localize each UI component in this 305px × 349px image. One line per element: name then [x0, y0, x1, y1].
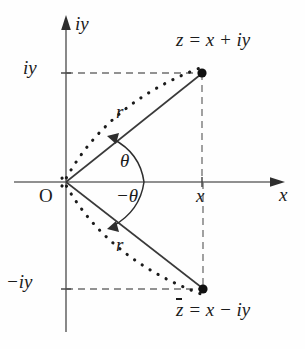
real-axis-label: x — [279, 185, 287, 204]
origin-label: O — [39, 186, 53, 205]
point-z — [197, 68, 206, 77]
radius-label-upper: r — [116, 102, 123, 121]
angle-label-negative: −θ — [116, 186, 138, 205]
complex-plane-figure: iy x O iy −iy x z = x + iy z = x − iy r … — [0, 0, 305, 349]
angle-arc-positive-arrowhead — [107, 133, 119, 144]
argand-diagram-canvas — [0, 0, 305, 349]
angle-label-positive: θ — [120, 151, 129, 170]
imaginary-axis-arrowhead — [61, 15, 71, 30]
tick-label-imag-negative: −iy — [6, 272, 33, 291]
imaginary-axis-label: iy — [75, 14, 89, 33]
point-label-z-conjugate-rest: = x − iy — [183, 299, 250, 320]
point-label-z: z = x + iy — [176, 30, 250, 49]
real-axis — [14, 177, 285, 187]
imaginary-axis — [61, 15, 71, 332]
tick-label-real: x — [196, 186, 204, 205]
radius-label-lower: r — [116, 235, 123, 254]
point-label-z-conjugate: z = x − iy — [176, 300, 250, 319]
point-z-conjugate — [198, 284, 207, 293]
tick-label-imag-positive: iy — [23, 58, 37, 77]
point-label-z-conjugate-overbar: z — [176, 300, 183, 319]
projection-lines — [66, 73, 203, 289]
radius-line-z — [66, 75, 200, 182]
axis-ticks — [61, 73, 202, 289]
